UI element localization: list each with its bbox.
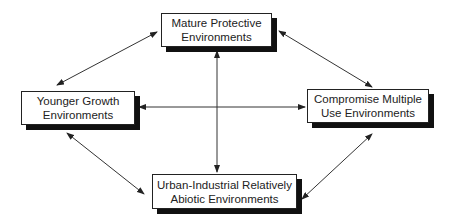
edge-younger-mature [57, 32, 157, 85]
edge-younger-urban [67, 133, 144, 194]
node-label-line1: Mature Protective [171, 16, 261, 30]
node-mature-protective: Mature Protective Environments [161, 13, 272, 47]
node-label-line2: Environments [181, 30, 251, 44]
node-label-line1: Younger Growth [37, 94, 120, 108]
node-younger-growth: Younger Growth Environments [21, 91, 135, 125]
edge-mature-compromise [279, 31, 372, 87]
node-urban-industrial: Urban-Industrial Relatively Abiotic Envi… [152, 174, 297, 209]
node-label-line2: Environments [43, 108, 113, 122]
node-label-line1: Urban-Industrial Relatively [157, 178, 292, 192]
node-compromise-multiple-use: Compromise Multiple Use Environments [307, 89, 429, 123]
edge-compromise-urban [302, 134, 372, 199]
node-label-line2: Abiotic Environments [170, 192, 278, 206]
node-label-line1: Compromise Multiple [314, 92, 422, 106]
node-label-line2: Use Environments [321, 106, 415, 120]
